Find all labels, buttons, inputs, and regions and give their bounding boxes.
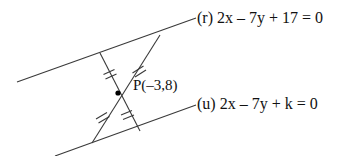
point-p-label: P(–3,8) xyxy=(133,78,178,93)
tick-marks-lower-left xyxy=(96,113,110,124)
line-r xyxy=(17,18,196,82)
tick-marks-upper-left xyxy=(104,70,117,80)
intersection-point-p xyxy=(115,90,120,95)
line-r-equation-label: (r) 2x – 7y + 17 = 0 xyxy=(197,10,323,26)
line-u-equation-label: (u) 2x – 7y + k = 0 xyxy=(197,96,318,112)
